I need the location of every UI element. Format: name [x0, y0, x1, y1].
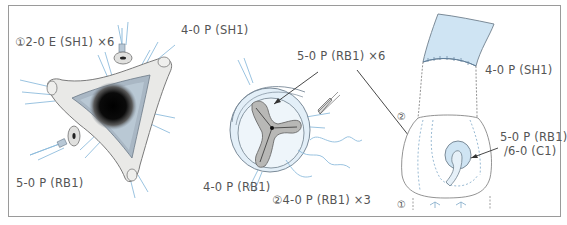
label-pledget-sutures: ①2-0 E (SH1) ×6 — [15, 36, 115, 49]
step-2-marker: ② — [397, 110, 406, 123]
label-left-bottom: 5-0 P (RB1) — [16, 177, 83, 190]
label-middle-bottom-left: 4-0 P (RB1) — [203, 181, 270, 194]
label-graft-suture: 4-0 P (SH1) — [485, 64, 552, 77]
label-coronary-line1: 5-0 P (RB1) — [500, 131, 567, 144]
label-coronary-line2: /6-0 (C1) — [504, 145, 556, 158]
pledget-top — [114, 28, 132, 64]
right-panel-graft — [402, 14, 498, 210]
label-middle-top: 5-0 P (RB1) ×6 — [297, 50, 386, 63]
middle-panel-valve — [230, 58, 362, 192]
pledget-bottom — [30, 126, 80, 155]
label-left-top-right: 4-0 P (SH1) — [181, 24, 248, 37]
step-1-marker: ① — [397, 198, 406, 211]
label-middle-bottom-right: ②4-0 P (RB1) ×3 — [272, 194, 371, 207]
